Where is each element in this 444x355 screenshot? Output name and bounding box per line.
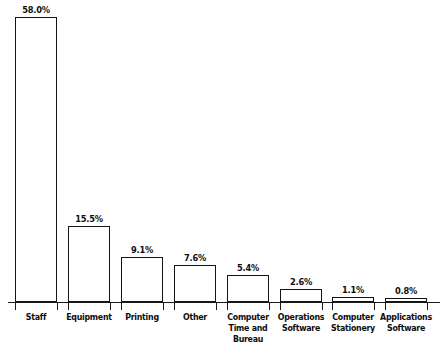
x-tick-0-left [15,303,16,310]
x-tick-4-right [269,303,270,310]
category-label-3: Other [164,312,225,323]
bar-value-label-5: 2.6% [273,277,328,287]
category-label-line: Bureau [217,334,278,345]
category-label-line: Printing [111,312,172,323]
bar-value-label-3: 7.6% [167,253,222,263]
bar-value-label-7: 0.8% [379,286,434,296]
category-label-7: ApplicationsSoftware [376,312,437,334]
category-label-line: Other [164,312,225,323]
category-label-4: ComputerTime andBureau [217,312,278,345]
x-tick-2-left [121,303,122,310]
bar-4 [227,275,269,302]
category-label-line: Applications [376,312,437,323]
category-label-line: Computer [217,312,278,323]
bar-3 [174,265,216,302]
x-tick-7-left [385,303,386,310]
x-tick-7-right [427,303,428,310]
bar-2 [121,257,163,302]
bar-value-label-4: 5.4% [220,263,275,273]
category-label-line: Software [376,323,437,334]
x-tick-0-right [57,303,58,310]
plot-area: 58.0%15.5%9.1%7.6%5.4%2.6%1.1%0.8% [0,0,444,303]
bar-value-label-6: 1.1% [326,285,381,295]
x-tick-6-left [332,303,333,310]
bar-chart: 58.0%15.5%9.1%7.6%5.4%2.6%1.1%0.8% Staff… [0,0,444,355]
x-tick-2-right [163,303,164,310]
x-tick-6-right [374,303,375,310]
bar-value-label-1: 15.5% [61,214,116,224]
bar-1 [68,226,110,302]
x-tick-3-left [174,303,175,310]
bar-value-label-2: 9.1% [114,245,169,255]
x-tick-5-right [322,303,323,310]
bar-0 [15,17,57,302]
bar-5 [280,289,322,302]
x-tick-1-right [110,303,111,310]
x-tick-1-left [68,303,69,310]
category-label-line: Time and [217,323,278,334]
x-tick-4-left [227,303,228,310]
x-tick-5-left [280,303,281,310]
x-tick-3-right [216,303,217,310]
category-label-2: Printing [111,312,172,323]
bar-value-label-0: 58.0% [8,5,63,15]
